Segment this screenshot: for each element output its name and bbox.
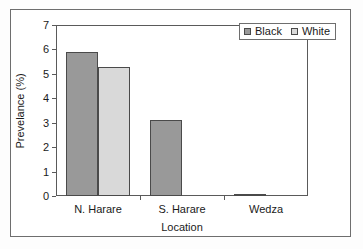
y-axis-tick-mark [52, 123, 56, 124]
x-axis-tick-mark [224, 196, 225, 200]
legend-label: Black [255, 26, 282, 37]
y-axis-tick-label: 1 [43, 166, 49, 177]
x-axis-tick-mark [140, 196, 141, 200]
y-axis-title: Prevelance (%) [13, 25, 27, 196]
y-axis-tick-mark [52, 98, 56, 99]
white-series-swatch [291, 28, 298, 35]
y-axis-tick-mark [52, 49, 56, 50]
x-axis-tick-label: Wedza [249, 204, 283, 215]
y-axis-tick-label: 6 [43, 44, 49, 55]
y-axis-title-text: Prevelance (%) [14, 73, 26, 148]
chart-page: Prevelance (%) 01234567 N. HarareS. Hara… [0, 0, 363, 249]
y-axis-tick-label: 0 [43, 191, 49, 202]
chart-legend: BlackWhite [239, 23, 336, 40]
y-axis-tick-mark [52, 147, 56, 148]
y-axis-tick-label: 2 [43, 142, 49, 153]
y-axis-tick-mark [52, 172, 56, 173]
bar [66, 52, 98, 196]
y-axis-tick-label: 7 [43, 20, 49, 31]
x-axis-tick-label: S. Harare [158, 204, 205, 215]
y-axis-tick-label: 5 [43, 68, 49, 79]
y-axis-tick-mark [52, 74, 56, 75]
plot-area: 01234567 N. HarareS. HarareWedza [56, 25, 308, 196]
legend-label: White [302, 26, 330, 37]
y-axis-tick-mark [52, 25, 56, 26]
legend-item: Black [244, 26, 282, 37]
y-axis-tick-label: 3 [43, 117, 49, 128]
x-axis-title: Location [56, 221, 308, 233]
legend-item: White [291, 26, 330, 37]
y-axis-tick-mark [52, 196, 56, 197]
black-series-swatch [244, 28, 251, 35]
x-axis-tick-label: N. Harare [74, 204, 122, 215]
bar [150, 120, 182, 196]
bar [234, 194, 266, 196]
bar [98, 67, 130, 196]
y-axis-tick-label: 4 [43, 93, 49, 104]
